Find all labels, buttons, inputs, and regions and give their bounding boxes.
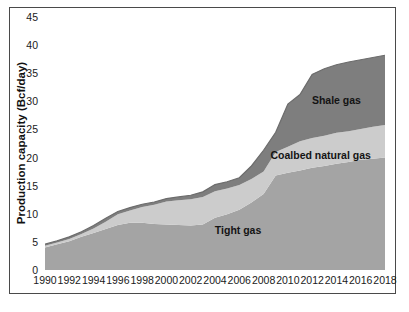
area-label-shale-gas: Shale gas [312,94,361,106]
y-tick-label-25: 25 [12,123,38,135]
y-axis-title: Production capacity (Bcf/day) [15,62,27,224]
area-label-tight-gas: Tight gas [215,224,261,236]
y-tick-label-30: 30 [12,95,38,107]
y-tick-label-15: 15 [12,180,38,192]
y-tick-label-5: 5 [12,236,38,248]
y-tick-label-35: 35 [12,67,38,79]
x-tick-label-2018: 2018 [368,274,402,286]
y-tick-label-20: 20 [12,152,38,164]
y-tick-label-45: 45 [12,11,38,23]
chart-figure: Production capacity (Bcf/day) 0510152025… [0,0,409,312]
y-tick-label-10: 10 [12,208,38,220]
y-tick-label-40: 40 [12,39,38,51]
area-label-coalbed-natural-gas: Coalbed natural gas [270,149,370,161]
